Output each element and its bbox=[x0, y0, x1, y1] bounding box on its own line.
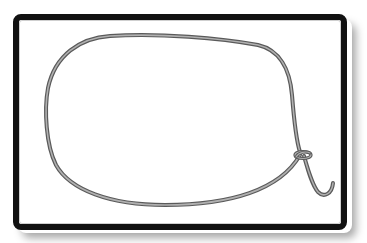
illustration-canvas bbox=[0, 0, 367, 243]
rope-loop-icon bbox=[0, 0, 367, 243]
